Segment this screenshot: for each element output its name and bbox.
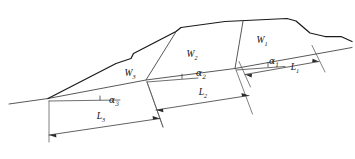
angle-reference-group	[49, 62, 285, 101]
block-label-w3: W3	[124, 68, 135, 80]
divider-w3-w2	[146, 31, 177, 80]
length-label-l2: L2	[198, 87, 207, 99]
block-label-w1: W1	[256, 35, 267, 47]
angle-label-alpha3: α3	[109, 95, 119, 107]
slope-diagram-container: W1 W2 W3 α1 α2 α3 L1 L2 L3	[0, 0, 355, 159]
slope-cross-section-figure: W1 W2 W3 α1 α2 α3 L1 L2 L3	[0, 0, 355, 159]
dimension-l1-group	[239, 46, 325, 88]
length-label-l3: L3	[96, 111, 105, 123]
angle-labels-group: α1 α2 α3	[109, 56, 279, 107]
block-label-w2: W2	[186, 49, 197, 61]
slip-surface-group	[9, 48, 352, 105]
angle-label-alpha2: α2	[196, 68, 206, 80]
dimension-l2-group	[147, 70, 253, 127]
arrowhead-l3-right	[153, 116, 160, 120]
dimension-l3-group	[49, 82, 163, 142]
length-label-l1: L1	[290, 62, 299, 74]
ground-surface-line	[9, 48, 352, 105]
dimension-line-l1	[245, 62, 319, 75]
extension-line-l1-right	[312, 46, 325, 73]
angle-label-alpha1: α1	[269, 56, 279, 68]
dimension-line-l2	[156, 96, 249, 111]
block-divider-group	[146, 21, 243, 80]
